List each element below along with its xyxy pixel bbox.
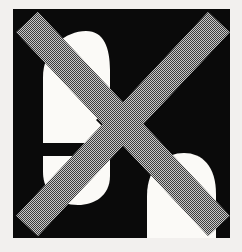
artwork-svg xyxy=(0,0,242,252)
artwork-canvas: Crossed-out logotype mark Black square p… xyxy=(0,0,242,252)
